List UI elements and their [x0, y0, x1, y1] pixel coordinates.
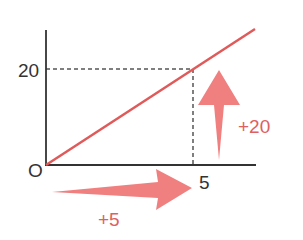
x-tick-label: 5 — [199, 172, 210, 193]
y-tick-label: 20 — [18, 60, 39, 81]
run-arrow-icon — [52, 169, 192, 210]
origin-label: O — [28, 160, 43, 181]
rise-label: +20 — [238, 116, 270, 137]
slope-diagram: O 20 5 +20 +5 — [0, 0, 303, 240]
run-label: +5 — [98, 209, 120, 230]
rise-arrow-icon — [198, 70, 240, 160]
